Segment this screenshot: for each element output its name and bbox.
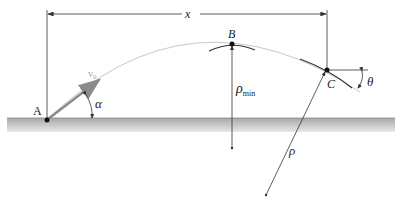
- label-b: B: [228, 27, 236, 41]
- label-alpha: α: [95, 96, 103, 111]
- point-b: [230, 42, 235, 47]
- label-x: x: [184, 7, 191, 21]
- point-c: [325, 68, 330, 73]
- dimension-x: [47, 10, 327, 120]
- diagram-canvas: A B C x v0 α θ ρmin ρ: [0, 0, 395, 202]
- label-rho: ρ: [288, 143, 295, 158]
- ground-surface: [7, 118, 395, 132]
- label-c: C: [327, 77, 336, 91]
- theta-arc: [358, 71, 363, 88]
- alpha-arc: [86, 95, 92, 118]
- point-a: [45, 118, 50, 123]
- trajectory-curve: [47, 42, 360, 120]
- rho-line: [266, 72, 325, 195]
- label-theta: θ: [367, 74, 374, 89]
- label-a: A: [33, 104, 42, 118]
- label-v0: v0: [88, 68, 97, 81]
- label-rho-min: ρmin: [235, 81, 255, 98]
- projectile-diagram: A B C x v0 α θ ρmin ρ: [0, 0, 395, 202]
- velocity-arrow: [48, 80, 99, 119]
